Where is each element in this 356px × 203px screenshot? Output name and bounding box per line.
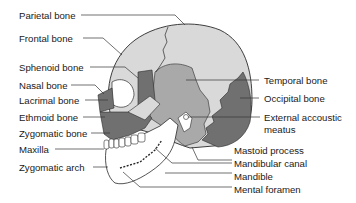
label-external-acoustic-meatus-line2: meatus [264, 124, 295, 135]
label-external-acoustic-meatus-line1: External accoustic [264, 112, 342, 123]
label-temporal-bone: Temporal bone [264, 75, 327, 86]
label-nasal-bone: Nasal bone [19, 80, 68, 91]
label-sphenoid-bone: Sphenoid bone [19, 62, 84, 73]
label-mastoid-process: Mastoid process [234, 145, 304, 156]
label-mandible: Mandible [234, 171, 273, 182]
label-mandibular-canal: Mandibular canal [234, 158, 307, 169]
label-maxilla: Maxilla [19, 144, 49, 155]
label-occipital-bone: Occipital bone [264, 93, 325, 104]
label-parietal-bone: Parietal bone [19, 10, 76, 21]
external-acoustic-meatus-shape [184, 115, 189, 120]
label-zygomatic-arch: Zygomatic arch [19, 162, 85, 173]
label-zygomatic-bone: Zygomatic bone [19, 128, 87, 139]
label-frontal-bone: Frontal bone [19, 33, 73, 44]
label-mental-foramen: Mental foramen [234, 184, 301, 195]
label-lacrimal-bone: Lacrimal bone [19, 95, 79, 106]
label-ethmoid-bone: Ethmoid bone [19, 112, 78, 123]
skull-diagram: Parietal bone Frontal bone Sphenoid bone… [0, 0, 356, 203]
